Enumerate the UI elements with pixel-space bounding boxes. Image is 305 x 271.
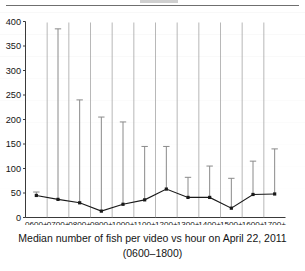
x-axis-tick-label: 1300+ bbox=[177, 220, 200, 225]
page-header-rule-stub bbox=[140, 0, 178, 3]
x-axis-tick-label: 1400+ bbox=[198, 220, 221, 225]
y-axis-tick-label: 300 bbox=[6, 66, 21, 76]
x-axis-tick-label: 1000+ bbox=[112, 220, 135, 225]
data-point-marker bbox=[56, 198, 59, 201]
error-bar bbox=[98, 117, 104, 211]
x-axis-tick-label: 0800+ bbox=[68, 220, 91, 225]
error-bar bbox=[250, 161, 256, 194]
error-bar bbox=[120, 122, 126, 204]
chart-plot-area: 0501001502002503003504000600+0700+0800+0… bbox=[0, 10, 305, 225]
error-bar bbox=[76, 100, 82, 203]
data-point-marker bbox=[78, 201, 81, 204]
x-axis-tick-label: 1200+ bbox=[155, 220, 178, 225]
y-axis-tick-label: 250 bbox=[6, 90, 21, 100]
error-bar bbox=[141, 146, 147, 199]
error-bar bbox=[55, 29, 61, 200]
x-axis-tick-label: 0700+ bbox=[47, 220, 70, 225]
y-axis-tick-label: 150 bbox=[6, 139, 21, 149]
data-point-marker bbox=[165, 187, 168, 190]
data-point-marker bbox=[230, 207, 233, 210]
data-point-marker bbox=[121, 203, 124, 206]
x-axis-tick-label: 1600+ bbox=[242, 220, 265, 225]
error-bar bbox=[163, 146, 169, 189]
page-header-rule bbox=[6, 5, 299, 6]
data-point-marker bbox=[208, 196, 211, 199]
figure-page: 0501001502002503003504000600+0700+0800+0… bbox=[0, 0, 305, 271]
figure-caption: Median number of fish per video vs hour … bbox=[0, 231, 305, 261]
error-bar bbox=[185, 177, 191, 197]
y-axis-tick-label: 350 bbox=[6, 41, 21, 51]
error-bar bbox=[228, 178, 234, 208]
x-axis-tick-label: 0900+ bbox=[90, 220, 113, 225]
data-point-marker bbox=[251, 193, 254, 196]
data-point-marker bbox=[100, 210, 103, 213]
y-axis-tick-label: 100 bbox=[6, 164, 21, 174]
x-axis-tick-label: 1100+ bbox=[134, 220, 156, 225]
y-axis-tick-label: 400 bbox=[6, 17, 21, 27]
caption-line-1: Median number of fish per video vs hour … bbox=[0, 231, 305, 246]
error-bar bbox=[271, 149, 277, 194]
data-point-marker bbox=[273, 192, 276, 195]
data-point-marker bbox=[143, 198, 146, 201]
caption-line-2: (0600–1800) bbox=[0, 246, 305, 261]
fish-per-video-line-chart: 0501001502002503003504000600+0700+0800+0… bbox=[0, 10, 305, 225]
x-axis-tick-label: 0600+ bbox=[25, 220, 48, 225]
error-bar bbox=[206, 166, 212, 197]
y-axis-tick-label: 200 bbox=[6, 115, 21, 125]
x-axis-tick-label: 1500+ bbox=[220, 220, 243, 225]
data-point-marker bbox=[186, 196, 189, 199]
y-axis-tick-label: 0 bbox=[16, 213, 21, 223]
y-axis-tick-label: 50 bbox=[11, 188, 21, 198]
data-point-marker bbox=[35, 194, 38, 197]
x-axis-tick-label: 1700+ bbox=[263, 220, 286, 225]
